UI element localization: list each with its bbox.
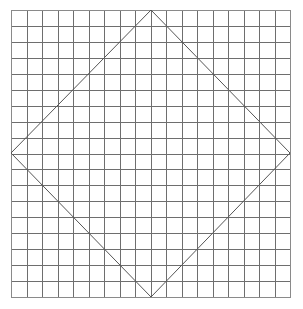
figure-root	[0, 0, 303, 309]
grid-diagram-svg	[0, 0, 303, 309]
